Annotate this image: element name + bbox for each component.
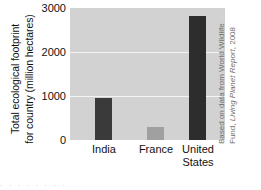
source-credit: Based on data from World Wildlife Fund, … (216, 12, 244, 144)
y-tick-2000: 2000 (26, 47, 66, 58)
source-credit-prefix: Fund, (228, 121, 237, 144)
y-tick-3000: 3000 (26, 3, 66, 14)
source-credit-line2: Fund, Living Planet Report, 2008 (227, 12, 238, 144)
source-credit-year: , 2008 (228, 27, 237, 49)
bar-france (147, 127, 164, 140)
page-bleed-text: · · · · · · · · (0, 181, 261, 190)
bar-chart-figure: Total ecological footprint for country (… (0, 0, 261, 190)
x-tick-india-line1: India (92, 143, 116, 155)
x-tick-us-line2: States (170, 156, 226, 169)
x-axis-tick-labels: India France United States (70, 143, 225, 183)
source-credit-line1: Based on data from World Wildlife (216, 12, 227, 144)
y-axis-label-line1: Total ecological footprint (9, 3, 23, 155)
x-tick-india: India (76, 143, 132, 156)
plot-area (70, 8, 225, 140)
x-tick-france-line1: France (139, 143, 173, 155)
x-tick-us-line1: United (182, 143, 214, 155)
bar-united-states (189, 16, 206, 140)
y-axis-tick-labels: 3000 2000 1000 0 (26, 0, 66, 190)
bar-india (95, 98, 112, 140)
x-tick-united-states: United States (170, 143, 226, 169)
y-tick-1000: 1000 (26, 91, 66, 102)
source-credit-report-title: Living Planet Report (228, 49, 237, 121)
y-tick-0: 0 (26, 135, 66, 146)
